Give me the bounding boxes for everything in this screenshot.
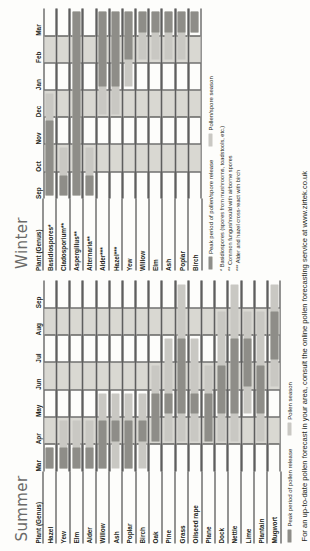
month-band <box>84 308 95 335</box>
month-gridline <box>71 416 82 417</box>
month-label-apr: Apr <box>32 433 43 444</box>
timeline-cell <box>228 281 241 472</box>
month-gridline <box>189 62 200 63</box>
peak-swatch-icon <box>287 529 291 542</box>
month-label-aug: Aug <box>32 323 43 335</box>
month-gridline <box>57 117 68 118</box>
table-row: Plantain <box>254 281 267 544</box>
month-gridline <box>57 389 68 390</box>
month-gridline <box>163 62 174 63</box>
table-row: Oak <box>149 281 162 544</box>
month-gridline <box>150 171 161 172</box>
plant-name-cell: Alternaria** <box>83 199 96 271</box>
month-band <box>57 308 68 335</box>
table-row: Elm <box>149 8 162 271</box>
timeline-cell <box>267 281 280 472</box>
calendar-table-summer: Plant (Genus) MarAprMayJunJulAugSep Haze… <box>32 281 281 544</box>
month-gridline <box>189 144 200 145</box>
month-gridline <box>97 144 108 145</box>
month-band <box>189 35 200 62</box>
timeline-track <box>136 8 149 199</box>
month-band <box>44 417 55 444</box>
plant-name-cell: Elm <box>149 199 162 271</box>
month-gridline <box>150 444 161 445</box>
timeline-cell <box>136 8 149 199</box>
month-gridline <box>163 89 174 90</box>
plant-name-cell: Alder <box>83 471 96 543</box>
timeline-track <box>83 281 96 472</box>
table-row: Alder <box>83 281 96 544</box>
month-band <box>57 362 68 389</box>
month-band <box>137 144 148 171</box>
month-band <box>97 308 108 335</box>
timeline-cell <box>83 8 96 199</box>
month-gridline <box>97 389 108 390</box>
month-gridline <box>84 362 95 363</box>
month-gridline <box>150 89 161 90</box>
month-gridline <box>123 335 134 336</box>
month-gridline <box>44 416 55 417</box>
season-swatch-icon <box>208 133 212 146</box>
plant-name-cell: Poplar <box>122 471 135 543</box>
month-gridline <box>44 62 55 63</box>
month-gridline <box>57 362 68 363</box>
month-band <box>71 362 82 389</box>
footnotes-winter: * Basidiospores (spores from mushrooms, … <box>217 8 241 271</box>
peak-bar <box>191 11 199 32</box>
month-gridline <box>84 117 95 118</box>
legend-entry-peak-summer: Peak period of pollen release <box>286 448 292 542</box>
month-band <box>137 90 148 117</box>
month-label-dec: Dec <box>32 105 43 117</box>
peak-bar <box>59 447 67 468</box>
month-band <box>44 35 55 62</box>
timeline-cell <box>149 8 162 199</box>
month-gridline <box>242 444 253 445</box>
timeline-cell <box>162 281 175 472</box>
month-gridline <box>176 144 187 145</box>
month-gridline <box>84 416 95 417</box>
timeline-cell <box>70 281 83 472</box>
timeline-cell <box>254 281 267 472</box>
panel-summer: Summer Plant (Genus) MarAprMayJunJulAugS… <box>15 281 293 544</box>
column-header-plant-summer: Plant (Genus) <box>32 471 43 543</box>
month-gridline <box>137 89 148 90</box>
plant-name-cell: Lime <box>241 471 254 543</box>
peak-bar <box>99 420 107 468</box>
month-gridline <box>150 362 161 363</box>
legend-entry-peak-winter: Peak period of pollen/spore release <box>207 159 213 269</box>
timeline-track <box>162 281 175 472</box>
peak-bar <box>72 447 80 468</box>
plant-name-cell: Birch <box>136 471 149 543</box>
timeline-track <box>215 281 228 472</box>
month-gridline <box>84 62 95 63</box>
month-gridline <box>84 335 95 336</box>
peak-bar <box>72 11 80 195</box>
month-band <box>137 308 148 335</box>
month-gridline <box>163 335 174 336</box>
month-gridline <box>44 444 55 445</box>
month-gridline <box>150 62 161 63</box>
peak-bar <box>85 447 93 468</box>
month-band <box>84 362 95 389</box>
month-gridline <box>203 307 214 308</box>
legend-label-peak-winter: Peak period of pollen/spore release <box>207 159 213 253</box>
timeline-cell <box>202 281 215 472</box>
table-row: Yew <box>56 281 69 544</box>
month-band <box>110 308 121 335</box>
month-gridline <box>84 389 95 390</box>
timeline-track <box>109 8 122 199</box>
table-row: Pine <box>162 281 175 544</box>
timeline-cell <box>136 281 149 472</box>
timeline-track <box>188 281 201 472</box>
plant-name-cell: Ash <box>162 199 175 271</box>
month-gridline <box>242 307 253 308</box>
legend-summer: Peak period of pollen release Pollen sea… <box>286 281 292 544</box>
timeline-cell <box>122 281 135 472</box>
month-gridline <box>57 335 68 336</box>
month-gridline <box>163 117 174 118</box>
month-gridline <box>84 35 95 36</box>
season-bar <box>191 338 199 440</box>
timeline-track <box>136 281 149 472</box>
month-gridline <box>163 171 174 172</box>
timeline-cell <box>83 281 96 472</box>
